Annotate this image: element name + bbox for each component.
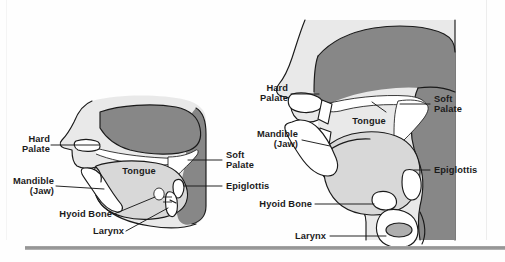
label-larynx-left: Larynx: [60, 226, 124, 236]
figure-page: Hard Palate Mandible (Jaw) Hyoid Bone La…: [0, 0, 505, 262]
label-tongue-right: Tongue: [344, 116, 394, 126]
label-hard-palate-right: Hard Palate: [244, 83, 288, 104]
label-hyoid-bone-right: Hyoid Bone: [240, 199, 312, 209]
left-hyoid-bone-shape: [154, 188, 164, 200]
label-mandible-right: Mandible (Jaw): [244, 129, 298, 150]
right-epiglottis-shape: [402, 170, 421, 200]
label-hard-palate-left: Hard Palate: [6, 134, 50, 155]
label-epiglottis-right: Epiglottis: [434, 165, 494, 175]
right-hyoid-bone-shape: [372, 191, 397, 210]
label-tongue-left: Tongue: [114, 166, 164, 176]
label-epiglottis-left: Epiglottis: [226, 181, 286, 191]
label-soft-palate-right: Soft Palate: [434, 94, 482, 115]
label-larynx-right: Larynx: [262, 231, 326, 241]
bottom-horizontal-rule: [25, 246, 505, 250]
label-mandible-left: Mandible (Jaw): [2, 176, 54, 197]
label-hyoid-bone-left: Hyoid Bone: [40, 209, 112, 219]
label-soft-palate-left: Soft Palate: [226, 150, 274, 171]
